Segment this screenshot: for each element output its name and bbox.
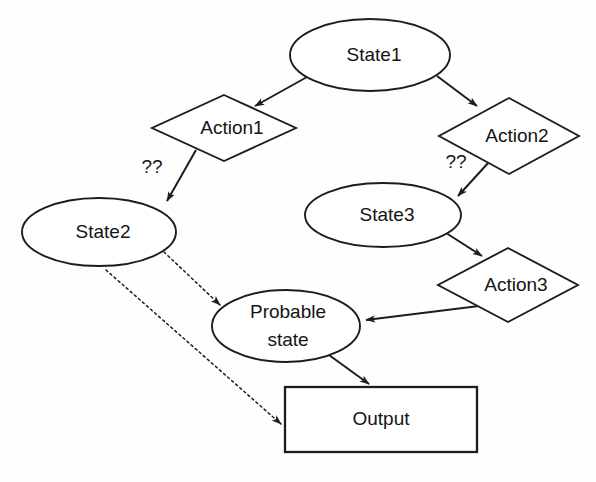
edge-state3-action3 xyxy=(443,231,482,256)
figure-container: State1 Action1 Action2 State2 State3 xyxy=(0,0,596,482)
node-action1[interactable]: Action1 xyxy=(152,95,296,161)
figure-caption xyxy=(0,471,596,482)
edge-label-action1-state2: ?? xyxy=(141,156,162,177)
node-state1[interactable]: State1 xyxy=(290,19,450,91)
action2-label: Action2 xyxy=(485,125,548,146)
edge-label-layer: ?? ?? xyxy=(141,151,466,177)
action3-label: Action3 xyxy=(484,274,547,295)
node-probable-state[interactable]: Probable state xyxy=(212,290,360,362)
action1-label: Action1 xyxy=(200,117,263,138)
state1-label: State1 xyxy=(347,44,402,65)
edge-probable-output xyxy=(329,355,369,384)
edge-action3-probable xyxy=(366,306,479,320)
node-action3[interactable]: Action3 xyxy=(438,248,578,322)
edge-state1-action2 xyxy=(437,76,477,106)
edge-state1-action1 xyxy=(255,77,307,106)
output-label: Output xyxy=(352,408,410,429)
node-layer: State1 Action1 Action2 State2 State3 xyxy=(22,19,579,452)
probable-state-label-line2: state xyxy=(267,329,308,350)
edge-label-action2-state3: ?? xyxy=(445,151,466,172)
edge-state2-probable xyxy=(164,252,220,305)
state2-label: State2 xyxy=(76,221,131,242)
diagram-canvas: State1 Action1 Action2 State2 State3 xyxy=(0,0,596,482)
node-output[interactable]: Output xyxy=(285,387,477,452)
state3-label: State3 xyxy=(360,204,415,225)
node-state3[interactable]: State3 xyxy=(305,183,461,247)
node-state2[interactable]: State2 xyxy=(22,198,176,266)
probable-state-label-line1: Probable xyxy=(250,301,326,322)
edge-action1-state2 xyxy=(167,150,196,201)
